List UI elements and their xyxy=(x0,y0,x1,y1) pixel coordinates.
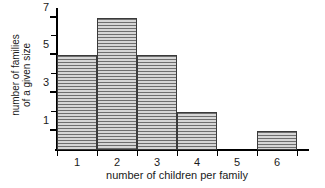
bar-category-6[interactable] xyxy=(257,131,297,150)
x-tick-label-5: 5 xyxy=(234,157,240,168)
x-axis-title: number of children per family xyxy=(57,170,297,181)
y-tick-label-1: 1 xyxy=(43,115,49,126)
x-tick-mark-boundary-1 xyxy=(97,150,98,156)
y-axis-title-line-1: number of families xyxy=(10,34,21,116)
bar-category-4[interactable] xyxy=(177,112,217,150)
histogram-figure: number of families of a given size 1 3 5… xyxy=(0,0,325,188)
y-tick-mark-1 xyxy=(50,129,57,131)
x-tick-mark-boundary-4 xyxy=(217,150,218,156)
plot-area: 1 3 5 7 1 2 3 4 5 6 xyxy=(57,8,297,150)
y-tick-label-7: 7 xyxy=(43,1,49,12)
y-tick-mark-5 xyxy=(50,53,57,55)
bar-category-1[interactable] xyxy=(57,55,97,150)
x-tick-mark-boundary-2 xyxy=(137,150,138,156)
x-tick-label-4: 4 xyxy=(194,157,200,168)
y-tick-label-5: 5 xyxy=(43,39,49,50)
bar-category-3[interactable] xyxy=(137,55,177,150)
y-axis-title-line-2: of a given size xyxy=(21,43,32,107)
y-tick-mark-3 xyxy=(50,91,57,93)
y-tick-mark-6 xyxy=(51,35,57,36)
x-tick-mark-boundary-3 xyxy=(177,150,178,156)
x-tick-label-6: 6 xyxy=(274,157,280,168)
x-tick-label-2: 2 xyxy=(114,157,120,168)
x-tick-mark-boundary-5 xyxy=(257,150,258,156)
y-axis-title: number of families of a given size xyxy=(2,0,40,150)
x-tick-mark-boundary-6 xyxy=(297,150,298,156)
y-tick-mark-7 xyxy=(50,16,57,18)
bar-category-2[interactable] xyxy=(97,18,137,151)
y-tick-label-3: 3 xyxy=(43,77,49,88)
x-tick-label-3: 3 xyxy=(154,157,160,168)
x-tick-label-1: 1 xyxy=(74,157,80,168)
x-tick-mark-boundary-0 xyxy=(57,150,58,156)
